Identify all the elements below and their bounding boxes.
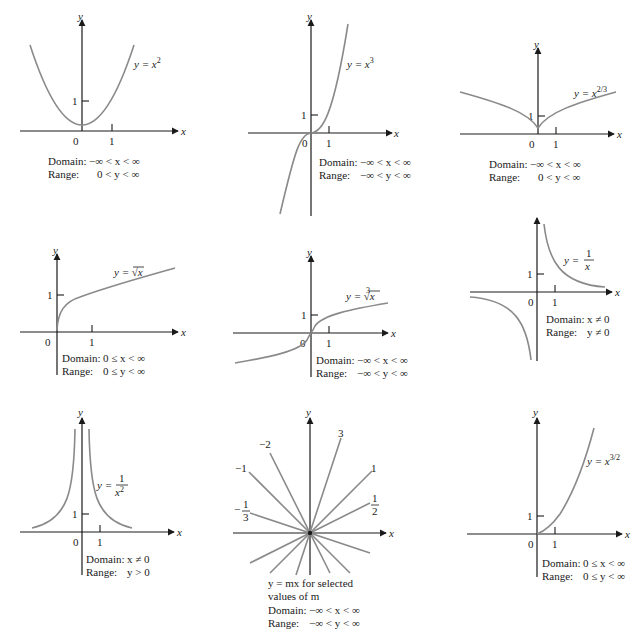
domain-value: −∞ < x < ∞ [530,158,581,170]
caption-line-1: y = mx for selected [268,577,354,589]
range-label: Range: [48,168,79,180]
origin-label: 0 [73,536,79,548]
line-slope-1 [270,471,372,573]
equation-label: y = x3/2 [586,453,620,467]
range-value: 0 ≤ y < ∞ [103,365,145,377]
panel-x-cubed: x y 1 1 0 y = x3 Domain: −∞ < x < ∞ Rang… [248,10,411,216]
slope-label-3: 3 [338,427,344,439]
range-label: Range: [542,570,573,582]
radical-index: 3 [366,286,370,295]
domain-value: 0 ≤ x < ∞ [103,352,145,364]
origin-label: 0 [529,138,535,150]
domain-value: −∞ < x < ∞ [309,604,360,616]
equation-label: y = √x [113,266,143,278]
x-axis-label: x [616,128,622,140]
svg-text:x2: x2 [114,485,124,498]
panel-x-three-halves: x y 1 1 0 y = x3/2 Domain: 0 ≤ x < ∞ Ran… [467,406,630,582]
equation-label: y = √x [345,290,375,302]
domain-label: Domain: [48,155,87,167]
svg-text:−: − [234,503,240,515]
origin-label: 0 [45,336,51,348]
range-value: 0 ≤ y < ∞ [583,570,625,582]
svg-text:1: 1 [372,492,378,504]
line-slope-neg-1 [249,472,350,573]
domain-value: 0 ≤ x < ∞ [583,557,625,569]
curve-reciprocal-negative [470,297,531,360]
range-label: Range: [86,566,117,578]
y-axis-label: y [306,246,312,258]
equation-label: y = 1 x [563,247,594,272]
svg-text:y =: y = [96,479,112,491]
domain-label: Domain: [546,313,585,325]
x-tick-label: 1 [89,336,95,348]
x-tick-label: 1 [109,135,115,147]
y-tick-label: 1 [527,268,533,280]
x-tick-label: 1 [553,138,559,150]
x-axis-label: x [180,125,186,137]
line-slope-neg-2 [270,453,330,573]
x-axis-label: x [393,127,399,139]
equation-label: y = x3 [346,56,374,70]
x-tick-label: 1 [326,137,332,149]
panel-x-two-thirds: x y 1 1 0 y = x2/3 Domain: −∞ < x < ∞ Ra… [460,38,622,183]
slope-label-half: 1 2 [371,492,379,517]
x-axis-label: x [614,286,620,298]
y-axis-label: y [52,244,58,256]
y-tick-label: 1 [47,289,53,301]
panel-x-squared: x y 1 1 0 y = x2 Domain: −∞ < x < ∞ Rang… [20,10,186,180]
y-axis-label: y [77,10,83,22]
y-tick-label: 1 [72,508,78,520]
x-tick-label: 1 [552,296,558,308]
svg-text:3: 3 [243,511,249,523]
x-axis-label: x [180,326,186,338]
y-axis-label: y [77,406,83,418]
range-label: Range: [319,169,350,181]
caption-line-2: values of m [268,590,320,602]
x-axis-label: x [176,526,182,538]
slope-label-neg-third: − 1 3 [234,498,250,523]
svg-text:x: x [584,260,590,272]
range-value: y ≠ 0 [587,326,610,338]
range-label: Range: [316,367,347,379]
range-value: y > 0 [127,566,150,578]
svg-text:1: 1 [119,472,125,484]
x-axis-label: x [390,327,396,339]
curve-x-three-halves [537,428,594,534]
range-label: Range: [546,326,577,338]
domain-label: Domain: [86,553,125,565]
domain-label: Domain: [489,158,528,170]
range-value: −∞ < y < ∞ [360,169,411,181]
range-value: 0 < y < ∞ [97,168,139,180]
svg-text:2: 2 [372,505,378,517]
origin-label: 0 [528,538,534,550]
panel-square-root: x y 1 1 0 y = √x Domain: 0 ≤ x < ∞ Range… [20,244,186,377]
y-tick-label: 1 [301,309,307,321]
equation-label: y = 1 x2 [96,472,128,498]
function-graphs-figure: x y 1 1 0 y = x2 Domain: −∞ < x < ∞ Rang… [0,0,644,636]
domain-value: x ≠ 0 [127,553,150,565]
curve-x-cubed [280,24,348,214]
domain-value: −∞ < x < ∞ [360,156,411,168]
y-axis-label: y [533,38,539,50]
x-tick-label: 1 [97,536,103,548]
x-tick-label: 1 [326,337,332,349]
domain-value: −∞ < x < ∞ [89,155,140,167]
origin-label: 0 [73,135,79,147]
domain-label: Domain: [319,156,358,168]
origin-label: 0 [528,296,534,308]
panel-linear-family: x y 3 1 1 2 −2 −1 − 1 3 y = mx for selec… [233,406,394,629]
range-value: 0 < y < ∞ [538,171,580,183]
panel-reciprocal-square: x y 1 1 0 y = 1 x2 Domain: x ≠ 0 Range: … [20,406,182,578]
svg-text:1: 1 [243,498,249,510]
svg-text:1: 1 [586,247,592,259]
domain-label: Domain: [268,604,307,616]
svg-text:y =: y = [563,254,579,266]
origin-point [308,531,312,535]
domain-label: Domain: [62,352,101,364]
equation-label: y = x2 [133,56,161,70]
domain-label: Domain: [542,557,581,569]
y-axis-label: y [305,406,311,418]
y-axis-label: y [532,406,538,418]
line-slope-3 [296,438,341,575]
slope-label-neg-2: −2 [259,438,271,450]
